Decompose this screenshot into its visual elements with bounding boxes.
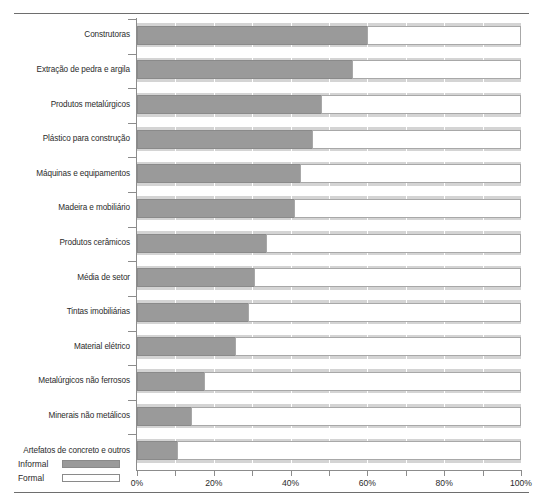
y-axis-tick: [128, 400, 136, 401]
table-row[interactable]: [137, 130, 521, 149]
bar-segment-informal[interactable]: [137, 60, 352, 79]
legend-item-formal: Formal: [18, 471, 130, 485]
x-axis-label-100: 100%: [501, 478, 541, 488]
y-axis-tick: [128, 434, 136, 435]
x-axis-label-80: 80%: [424, 478, 464, 488]
category-label-7: Média de setor: [12, 273, 130, 282]
x-axis-tick-100: [521, 471, 522, 476]
table-row[interactable]: [137, 303, 521, 322]
category-label-2: Produtos metalúrgicos: [12, 100, 130, 109]
bar-segment-informal[interactable]: [137, 441, 177, 460]
table-row[interactable]: [137, 164, 521, 183]
bar-segment-informal[interactable]: [137, 407, 191, 426]
plot-area: [137, 18, 521, 468]
legend-item-informal: Informal: [18, 457, 130, 471]
category-label-11: Minerais não metálicos: [12, 411, 130, 420]
bar-rows: [137, 18, 521, 468]
x-axis-label-60: 60%: [347, 478, 387, 488]
category-label-10: Metalúrgicos não ferrosos: [12, 376, 130, 385]
y-axis-tick: [128, 261, 136, 262]
bar-segment-informal[interactable]: [137, 26, 367, 45]
bar-segment-formal[interactable]: [204, 372, 521, 391]
category-label-6: Produtos cerâmicos: [12, 238, 130, 247]
table-row[interactable]: [137, 26, 521, 45]
x-axis-tick-80: [444, 471, 445, 476]
stacked-bar-chart-figure: ConstrutorasExtração de pedra e argilaPr…: [0, 0, 542, 501]
x-axis-label-40: 40%: [271, 478, 311, 488]
category-label-1: Extração de pedra e argila: [12, 65, 130, 74]
x-axis-tick-90: [483, 471, 484, 476]
x-axis-tick-50: [329, 471, 330, 476]
bar-segment-informal[interactable]: [137, 337, 235, 356]
bar-segment-informal[interactable]: [137, 372, 204, 391]
table-row[interactable]: [137, 268, 521, 287]
bar-segment-formal[interactable]: [177, 441, 521, 460]
bar-segment-informal[interactable]: [137, 234, 266, 253]
y-axis-tick: [128, 54, 136, 55]
bar-segment-informal[interactable]: [137, 303, 248, 322]
bar-segment-informal[interactable]: [137, 130, 312, 149]
table-row[interactable]: [137, 60, 521, 79]
x-axis-tick-20: [214, 471, 215, 476]
legend-label-informal: Informal: [18, 459, 62, 469]
category-label-4: Máquinas e equipamentos: [12, 169, 130, 178]
bar-segment-formal[interactable]: [312, 130, 521, 149]
formal-swatch: [62, 474, 120, 482]
x-axis-tick-30: [252, 471, 253, 476]
legend-label-formal: Formal: [18, 473, 62, 483]
table-row[interactable]: [137, 234, 521, 253]
x-axis-label-20: 20%: [194, 478, 234, 488]
bar-segment-informal[interactable]: [137, 268, 254, 287]
table-row[interactable]: [137, 441, 521, 460]
bar-segment-formal[interactable]: [191, 407, 521, 426]
bar-segment-formal[interactable]: [294, 199, 521, 218]
bottom-divider-rule: [14, 492, 529, 493]
y-axis-tick: [128, 365, 136, 366]
y-axis-tick: [128, 192, 136, 193]
bar-segment-formal[interactable]: [300, 164, 521, 183]
x-axis-tick-0: [137, 471, 138, 476]
category-axis-labels: ConstrutorasExtração de pedra e argilaPr…: [8, 0, 130, 501]
bar-segment-informal[interactable]: [137, 164, 300, 183]
chart-legend: Informal Formal: [18, 457, 130, 485]
table-row[interactable]: [137, 199, 521, 218]
x-axis-tick-60: [367, 471, 368, 476]
category-label-9: Material elétrico: [12, 342, 130, 351]
table-row[interactable]: [137, 337, 521, 356]
x-axis-tick-10: [175, 471, 176, 476]
table-row[interactable]: [137, 407, 521, 426]
y-axis-tick: [128, 227, 136, 228]
category-label-12: Artefatos de concreto e outros: [12, 446, 130, 455]
table-row[interactable]: [137, 95, 521, 114]
y-axis-tick: [128, 157, 136, 158]
y-axis-tick: [128, 88, 136, 89]
category-label-3: Plástico para construção: [12, 134, 130, 143]
bar-segment-informal[interactable]: [137, 95, 321, 114]
bar-segment-formal[interactable]: [266, 234, 521, 253]
bar-segment-formal[interactable]: [248, 303, 521, 322]
category-label-0: Construtoras: [12, 30, 130, 39]
informal-swatch: [62, 460, 120, 468]
bar-segment-formal[interactable]: [235, 337, 521, 356]
category-label-8: Tintas imobiliárias: [12, 307, 130, 316]
x-axis-tick-40: [291, 471, 292, 476]
bar-segment-informal[interactable]: [137, 199, 294, 218]
y-axis-tick: [128, 19, 136, 20]
bar-segment-formal[interactable]: [352, 60, 521, 79]
x-axis-tick-70: [406, 471, 407, 476]
y-axis-tick: [128, 296, 136, 297]
bar-segment-formal[interactable]: [321, 95, 521, 114]
y-axis-tick: [128, 331, 136, 332]
bar-segment-formal[interactable]: [367, 26, 521, 45]
y-axis-tick: [128, 123, 136, 124]
category-label-5: Madeira e mobiliário: [12, 203, 130, 212]
table-row[interactable]: [137, 372, 521, 391]
bar-segment-formal[interactable]: [254, 268, 521, 287]
